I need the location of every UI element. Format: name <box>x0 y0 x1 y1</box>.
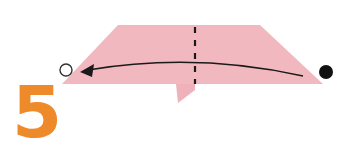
step-number: 5 <box>12 76 62 148</box>
paper-shape <box>62 25 323 103</box>
paper-flap <box>176 84 195 103</box>
start-marker-filled-dot <box>319 65 333 79</box>
paper-trapezoid <box>62 25 323 84</box>
